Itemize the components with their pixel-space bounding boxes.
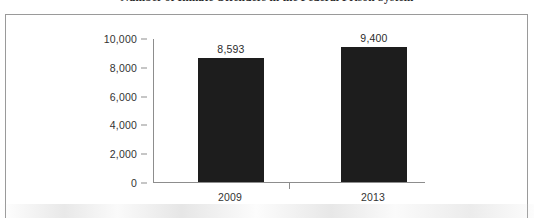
y-tick-label: 8,000 [110, 62, 137, 74]
y-tick-label: 6,000 [110, 91, 137, 103]
plot-area: 8,593 9,400 [153, 39, 425, 183]
bar-value-label-2009: 8,593 [217, 43, 244, 55]
figure-title: Number of Inmate Offenders in the Federa… [0, 0, 534, 5]
y-tick-mark [141, 39, 147, 40]
bar-value-label-2013: 9,400 [360, 32, 387, 44]
x-axis-label-2013: 2013 [361, 191, 385, 203]
y-tick-mark [141, 125, 147, 126]
y-axis: 0 2,000 4,000 6,000 8,000 10,000 [26, 39, 147, 183]
bar-2009 [198, 58, 264, 182]
bar-2013 [341, 47, 407, 182]
y-tick-mark [141, 183, 147, 184]
x-axis-label-2009: 2009 [218, 191, 242, 203]
figure-frame: 0 2,000 4,000 6,000 8,000 10,000 8,593 9… [5, 14, 528, 218]
y-tick-label: 2,000 [110, 148, 137, 160]
y-tick-label: 10,000 [104, 33, 137, 45]
y-tick-label: 4,000 [110, 119, 137, 131]
y-tick-label: 0 [131, 177, 137, 189]
bar-chart: 0 2,000 4,000 6,000 8,000 10,000 8,593 9… [6, 15, 529, 218]
y-tick-mark [141, 96, 147, 97]
y-tick-mark [141, 67, 147, 68]
x-tick-mark [289, 183, 290, 189]
y-tick-mark [141, 154, 147, 155]
